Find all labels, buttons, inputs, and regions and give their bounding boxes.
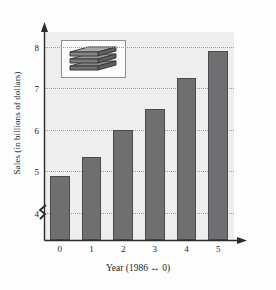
bar-year-3 (145, 109, 165, 240)
x-axis-title: Year (1986 ↔ 0) (0, 263, 276, 273)
y-tick-label-7: 7 (35, 85, 40, 94)
x-tick-label-2: 2 (121, 244, 126, 254)
bar-year-1 (82, 157, 102, 240)
gridline-y-8: 8 (44, 47, 234, 48)
x-axis-arrowhead (237, 237, 247, 244)
bar-year-5 (208, 51, 228, 240)
y-tick-label-8: 8 (35, 43, 40, 52)
x-tick-label-5: 5 (216, 244, 221, 254)
plot-area: 45678012345 (44, 32, 234, 240)
bar-year-4 (177, 78, 197, 240)
x-tick-label-1: 1 (89, 244, 94, 254)
x-tick-label-3: 3 (153, 244, 158, 254)
x-tick-label-4: 4 (184, 244, 189, 254)
y-tick-label-5: 5 (35, 168, 40, 177)
y-axis-arrowhead (41, 22, 48, 32)
y-tick-label-6: 6 (35, 126, 40, 135)
y-axis-title: Sales (in billions of dollars) (12, 38, 22, 208)
y-tick-label-4: 4 (35, 209, 40, 218)
gridline-y-5: 5 (44, 171, 234, 172)
gridline-y-4: 4 (44, 213, 234, 214)
gridline-y-6: 6 (44, 130, 234, 131)
bar-year-2 (113, 130, 133, 240)
x-tick-label-0: 0 (58, 244, 63, 254)
bar-chart-figure: Sales (in billions of dollars) 4567801 (0, 0, 276, 290)
gridline-y-7: 7 (44, 88, 234, 89)
bar-year-0 (50, 176, 70, 240)
